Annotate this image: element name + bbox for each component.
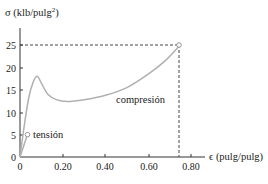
- x-axis-label: ϵ (pulg/pulg): [209, 151, 264, 163]
- x-tick-label-0: 0: [18, 161, 23, 172]
- x-tick-label-0.20: 0.20: [54, 161, 72, 172]
- endpoint-marker: [177, 43, 182, 48]
- y-tick-label-10: 10: [6, 108, 16, 119]
- y-tick-label-15: 15: [6, 85, 16, 96]
- y-tick-label-5: 5: [11, 130, 16, 141]
- y-tick-label-20: 20: [6, 63, 16, 74]
- y-tick-label-25: 25: [6, 40, 16, 51]
- x-tick-label-0.60: 0.60: [140, 161, 158, 172]
- tension-label: tensión: [33, 129, 64, 140]
- y-axis-label: σ (klb/pulg2): [5, 6, 59, 19]
- x-tick-label-0.40: 0.40: [96, 161, 114, 172]
- stress-strain-chart: 0 5 10 15 20 25 0 0.20 0.40 0.60 0.80 σ …: [0, 0, 268, 184]
- x-tick-label-0.80: 0.80: [182, 161, 200, 172]
- tension-point-marker: [25, 132, 30, 137]
- y-tick-label-0: 0: [11, 152, 16, 163]
- compression-label: compresión: [116, 94, 166, 105]
